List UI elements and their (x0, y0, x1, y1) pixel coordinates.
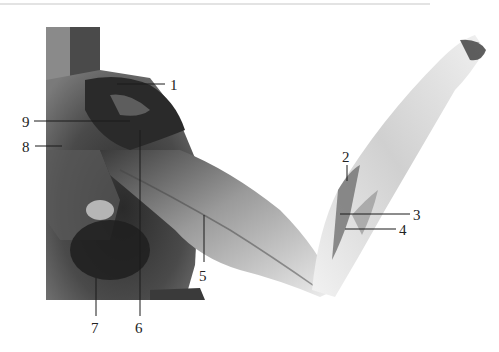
svg-text:1: 1 (170, 77, 178, 93)
svg-text:9: 9 (22, 114, 30, 130)
svg-text:3: 3 (413, 207, 421, 223)
anatomy-figure: 1 9 8 7 6 5 2 3 4 (0, 0, 499, 352)
svg-text:6: 6 (135, 320, 143, 336)
svg-text:7: 7 (91, 320, 99, 336)
forearm-specimen (312, 35, 485, 297)
svg-text:8: 8 (22, 139, 30, 155)
svg-text:4: 4 (399, 222, 407, 238)
svg-text:5: 5 (199, 268, 207, 284)
svg-text:2: 2 (342, 149, 350, 165)
